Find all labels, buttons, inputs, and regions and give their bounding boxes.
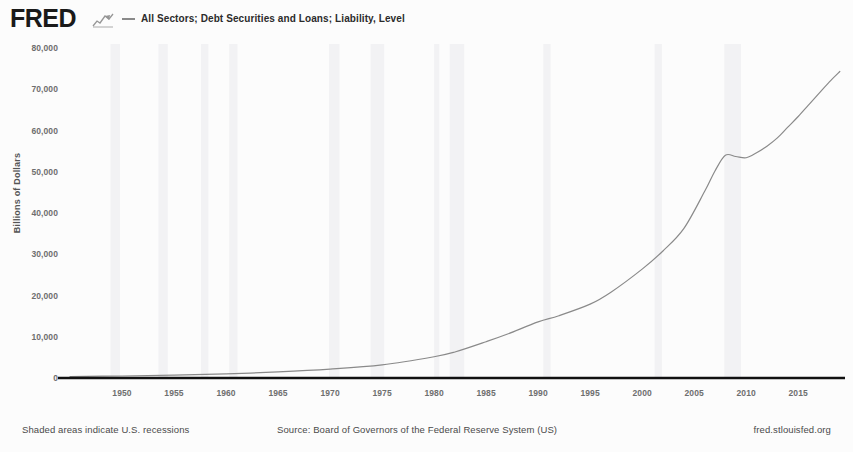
fred-chart-screenshot: FRED All Sectors; Debt Securities and Lo… bbox=[0, 0, 853, 452]
recession-band bbox=[724, 44, 741, 378]
fred-url[interactable]: fred.stlouisfed.org bbox=[754, 424, 831, 435]
legend-series-label: All Sectors; Debt Securities and Loans; … bbox=[141, 13, 405, 24]
fred-chart-mark-icon bbox=[92, 12, 114, 28]
recession-band bbox=[229, 44, 237, 378]
source-note: Source: Board of Governors of the Federa… bbox=[277, 424, 557, 435]
chart-legend: All Sectors; Debt Securities and Loans; … bbox=[122, 13, 405, 24]
recession-note: Shaded areas indicate U.S. recessions bbox=[22, 424, 189, 435]
recession-band bbox=[450, 44, 465, 378]
line-swatch-icon bbox=[122, 18, 135, 20]
recession-band bbox=[543, 44, 550, 378]
recession-band bbox=[111, 44, 120, 378]
recession-band bbox=[201, 44, 208, 378]
chart-plot-region: Billions of Dollars 80,00070,00060,00050… bbox=[0, 36, 853, 416]
fred-logo: FRED bbox=[10, 6, 76, 31]
chart-footer: Shaded areas indicate U.S. recessions So… bbox=[0, 418, 853, 452]
recession-band bbox=[329, 44, 339, 378]
series-plot bbox=[0, 36, 853, 416]
recession-band bbox=[655, 44, 662, 378]
recession-band bbox=[371, 44, 385, 378]
chart-header: FRED All Sectors; Debt Securities and Lo… bbox=[0, 0, 853, 36]
recession-band bbox=[434, 44, 439, 378]
recession-band bbox=[158, 44, 167, 378]
